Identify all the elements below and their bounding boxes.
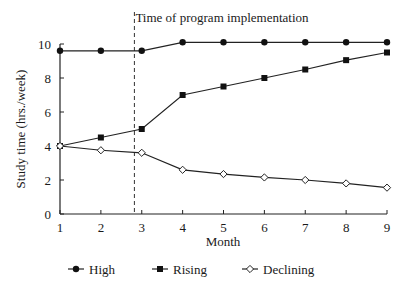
rising-line — [60, 53, 387, 147]
x-tick-label: 2 — [98, 220, 105, 235]
y-tick-label: 10 — [38, 37, 51, 52]
line-chart: Time of program implementation 024681012… — [0, 0, 406, 291]
legend-item-declining: Declining — [242, 262, 315, 277]
x-tick-label: 1 — [57, 220, 64, 235]
series-declining — [56, 142, 390, 191]
legend-item-rising: Rising — [152, 262, 207, 277]
declining-line — [60, 146, 387, 188]
rising-square-marker — [343, 57, 349, 63]
declining-diamond-marker — [343, 180, 350, 187]
declining-diamond-marker — [179, 166, 186, 173]
high-circle-marker — [139, 48, 145, 54]
x-axis-label: Month — [206, 234, 241, 249]
rising-square-marker — [261, 75, 267, 81]
rising-square-marker — [180, 92, 186, 98]
y-tick-label: 0 — [45, 207, 52, 222]
legend-label: High — [89, 262, 116, 277]
high-circle-marker — [220, 39, 226, 45]
high-circle-marker — [384, 39, 390, 45]
rising-square-marker — [139, 126, 145, 132]
y-tick-label: 2 — [45, 173, 52, 188]
series-layer — [56, 39, 390, 191]
legend-label: Rising — [173, 262, 207, 277]
x-tick-label: 6 — [261, 220, 268, 235]
x-tick-label: 5 — [220, 220, 227, 235]
x-tick-label: 9 — [384, 220, 391, 235]
x-tick-label: 4 — [179, 220, 186, 235]
declining-diamond-marker — [220, 170, 227, 177]
series-rising — [57, 50, 390, 150]
high-circle-marker — [98, 48, 104, 54]
y-axis-label: Study time (hrs./week) — [13, 70, 28, 189]
legend-label: Declining — [263, 262, 315, 277]
declining-diamond-marker — [97, 147, 104, 154]
implementation-label: Time of program implementation — [135, 10, 309, 25]
rising-square-marker — [221, 84, 227, 90]
high-circle-marker — [261, 39, 267, 45]
high-circle-marker — [343, 39, 349, 45]
high-circle-marker — [57, 48, 63, 54]
declining-diamond-marker — [383, 184, 390, 191]
declining-diamond-marker — [138, 149, 145, 156]
legend-rising-square-marker — [157, 266, 163, 272]
high-circle-marker — [302, 39, 308, 45]
x-tick-label: 7 — [302, 220, 309, 235]
y-tick-label: 8 — [45, 71, 52, 86]
legend-declining-diamond-marker — [246, 265, 253, 272]
rising-square-marker — [98, 135, 104, 141]
x-tick-label: 8 — [343, 220, 350, 235]
axes: 0246810123456789 — [38, 37, 390, 236]
rising-square-marker — [384, 50, 390, 56]
series-high — [57, 39, 390, 54]
declining-diamond-marker — [261, 174, 268, 181]
legend-high-circle-marker — [73, 266, 79, 272]
declining-diamond-marker — [302, 176, 309, 183]
x-tick-label: 3 — [139, 220, 146, 235]
high-circle-marker — [179, 39, 185, 45]
y-tick-label: 6 — [45, 105, 52, 120]
y-tick-label: 4 — [45, 139, 52, 154]
legend: HighRisingDeclining — [68, 262, 315, 277]
legend-item-high: High — [68, 262, 116, 277]
rising-square-marker — [302, 67, 308, 73]
